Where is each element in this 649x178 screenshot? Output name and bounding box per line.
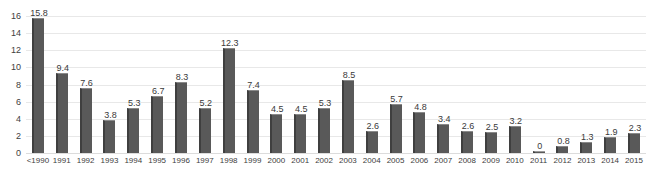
- x-axis-tick-24: 2014: [598, 156, 622, 170]
- bar-chart: 0246810121416 15.89.47.63.85.36.78.35.21…: [0, 0, 649, 178]
- bar[interactable]: 5.2: [199, 108, 211, 153]
- bar-value-label: 5.2: [200, 98, 213, 108]
- bar-wrapper: 12.3: [223, 48, 235, 153]
- bar-wrapper: 2.5: [485, 132, 497, 153]
- bar-value-label: 2.3: [629, 123, 642, 133]
- bar-value-label: 3.4: [438, 114, 451, 124]
- bar[interactable]: 12.3: [223, 48, 235, 153]
- bar-slot: 5.3: [121, 16, 145, 153]
- x-axis-tick-8: 1998: [217, 156, 241, 170]
- bar-value-label: 3.2: [510, 116, 523, 126]
- bar-value-label: 7.4: [247, 80, 260, 90]
- bar[interactable]: 8.5: [342, 80, 354, 153]
- bar[interactable]: 3.4: [437, 124, 449, 153]
- bar-wrapper: 2.3: [628, 133, 640, 153]
- bar[interactable]: 1.3: [580, 142, 592, 153]
- x-axis-tick-23: 2013: [574, 156, 598, 170]
- bar-value-label: 1.9: [605, 127, 618, 137]
- bar-wrapper: 5.7: [390, 104, 402, 153]
- bar-slot: 3.4: [431, 16, 455, 153]
- bar-value-label: 9.4: [57, 63, 70, 73]
- x-axis-tick-10: 2000: [264, 156, 288, 170]
- bar-slot: 5.3: [312, 16, 336, 153]
- bar-series: 15.89.47.63.85.36.78.35.212.37.44.54.55.…: [26, 16, 646, 153]
- x-axis-tick-14: 2004: [360, 156, 384, 170]
- bar-wrapper: 3.2: [509, 126, 521, 153]
- bar-wrapper: 7.6: [80, 88, 92, 153]
- bar-value-label: 3.8: [104, 110, 117, 120]
- x-axis-tick-22: 2012: [551, 156, 575, 170]
- bar-slot: 6.7: [145, 16, 169, 153]
- bar[interactable]: 1.9: [604, 137, 616, 153]
- bar-slot: 7.4: [241, 16, 265, 153]
- bar[interactable]: 2.6: [461, 131, 473, 153]
- bar-slot: 3.8: [98, 16, 122, 153]
- bar-value-label: 5.3: [319, 98, 332, 108]
- bar[interactable]: 6.7: [151, 96, 163, 153]
- bar-slot: 2.6: [360, 16, 384, 153]
- bar[interactable]: 7.4: [247, 90, 259, 153]
- bar-wrapper: 0: [533, 151, 545, 153]
- bar-wrapper: 3.8: [103, 120, 115, 153]
- bar-slot: 7.6: [74, 16, 98, 153]
- bar[interactable]: 2.5: [485, 132, 497, 153]
- x-axis-tick-11: 2001: [288, 156, 312, 170]
- x-axis-tick-1: 1991: [50, 156, 74, 170]
- x-axis-tick-3: 1993: [98, 156, 122, 170]
- bar-slot: 5.2: [193, 16, 217, 153]
- bar[interactable]: 8.3: [175, 82, 187, 153]
- bar-slot: 2.3: [622, 16, 646, 153]
- y-axis-tick-4: 8: [16, 80, 21, 90]
- bar-slot: 0.8: [551, 16, 575, 153]
- bar-value-label: 4.5: [271, 104, 284, 114]
- x-axis-tick-19: 2009: [479, 156, 503, 170]
- bar[interactable]: 0: [533, 151, 545, 153]
- bar[interactable]: 2.6: [366, 131, 378, 153]
- x-axis-tick-25: 2015: [622, 156, 646, 170]
- bar[interactable]: 5.3: [127, 108, 139, 153]
- x-axis-tick-18: 2008: [455, 156, 479, 170]
- bar-wrapper: 5.3: [318, 108, 330, 153]
- bar-value-label: 4.5: [295, 104, 308, 114]
- bar[interactable]: 2.3: [628, 133, 640, 153]
- bar[interactable]: 0.8: [556, 146, 568, 153]
- x-axis-tick-16: 2006: [408, 156, 432, 170]
- bar-slot: 4.5: [264, 16, 288, 153]
- bar-value-label: 1.3: [581, 132, 594, 142]
- bar-slot: 5.7: [384, 16, 408, 153]
- bar[interactable]: 5.3: [318, 108, 330, 153]
- bar[interactable]: 9.4: [56, 73, 68, 153]
- y-axis-tick-6: 12: [11, 45, 21, 55]
- bar-slot: 4.5: [288, 16, 312, 153]
- bar-value-label: 5.7: [390, 94, 403, 104]
- bar[interactable]: 4.5: [294, 114, 306, 153]
- x-axis-tick-17: 2007: [431, 156, 455, 170]
- plot-area: 15.89.47.63.85.36.78.35.212.37.44.54.55.…: [26, 16, 646, 153]
- bar[interactable]: 15.8: [32, 18, 44, 153]
- bar-slot: 2.5: [479, 16, 503, 153]
- bar-value-label: 2.6: [366, 121, 379, 131]
- gridline-0: [26, 153, 646, 154]
- bar[interactable]: 4.8: [413, 112, 425, 153]
- bar[interactable]: 4.5: [270, 114, 282, 153]
- bar-slot: 3.2: [503, 16, 527, 153]
- y-axis-tick-7: 14: [11, 28, 21, 38]
- bar[interactable]: 3.2: [509, 126, 521, 153]
- bar[interactable]: 3.8: [103, 120, 115, 153]
- x-axis-tick-7: 1997: [193, 156, 217, 170]
- bar[interactable]: 5.7: [390, 104, 402, 153]
- bar-value-label: 0: [537, 141, 542, 151]
- bar-value-label: 7.6: [80, 78, 93, 88]
- y-axis: 0246810121416: [0, 16, 24, 153]
- x-axis-tick-4: 1994: [121, 156, 145, 170]
- x-axis-tick-0: <1990: [26, 156, 50, 170]
- y-axis-tick-5: 10: [11, 62, 21, 72]
- bar-value-label: 2.5: [486, 122, 499, 132]
- y-axis-tick-2: 4: [16, 114, 21, 124]
- x-axis-tick-12: 2002: [312, 156, 336, 170]
- bar-wrapper: 1.9: [604, 137, 616, 153]
- x-axis-tick-6: 1996: [169, 156, 193, 170]
- bar-slot: 9.4: [50, 16, 74, 153]
- bar[interactable]: 7.6: [80, 88, 92, 153]
- bar-wrapper: 3.4: [437, 124, 449, 153]
